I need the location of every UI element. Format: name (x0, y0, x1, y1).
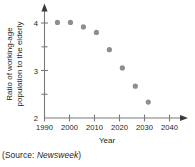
x-tick-label-2010: 2010 (86, 123, 103, 132)
y-axis-group: 4 3 2 (34, 4, 48, 124)
source-publication: Newsweek (37, 150, 78, 160)
x-axis-group: 1990 2000 2010 2020 2030 2040 Year (36, 115, 188, 146)
data-point (55, 20, 60, 25)
x-tick-label-2000: 2000 (61, 123, 78, 132)
data-point (120, 65, 125, 70)
y-axis-title-group: Ratio of working-age population to the e… (5, 22, 24, 107)
data-point (146, 99, 151, 104)
data-point (81, 24, 86, 29)
source-prefix: (Source: (2, 150, 37, 160)
y-axis-title-line-1: Ratio of working-age (5, 27, 14, 101)
x-tick-label-2020: 2020 (111, 123, 128, 132)
y-tick-label-3: 3 (34, 67, 38, 76)
x-tick-label-2040: 2040 (161, 123, 178, 132)
y-axis-arrowhead (41, 4, 47, 12)
data-point (133, 84, 138, 89)
x-tick-label-1990: 1990 (36, 123, 53, 132)
y-tick-label-4: 4 (34, 19, 38, 28)
y-tick-label-2: 2 (34, 114, 38, 123)
source-caption: (Source: Newsweek) (2, 150, 81, 160)
data-point-series (55, 20, 151, 105)
x-axis-title: Year (99, 136, 116, 145)
data-point (107, 47, 112, 52)
y-axis-title-line-2: population to the elderly (15, 22, 24, 107)
data-point (68, 20, 73, 25)
scatter-chart: 4 3 2 1990 2000 2010 2020 2030 2040 Year… (0, 0, 195, 147)
source-suffix: ) (78, 150, 81, 160)
x-axis-arrowhead (180, 115, 188, 121)
x-tick-label-2030: 2030 (136, 123, 153, 132)
data-point (94, 30, 99, 35)
chart-figure: 4 3 2 1990 2000 2010 2020 2030 2040 Year… (0, 0, 195, 147)
